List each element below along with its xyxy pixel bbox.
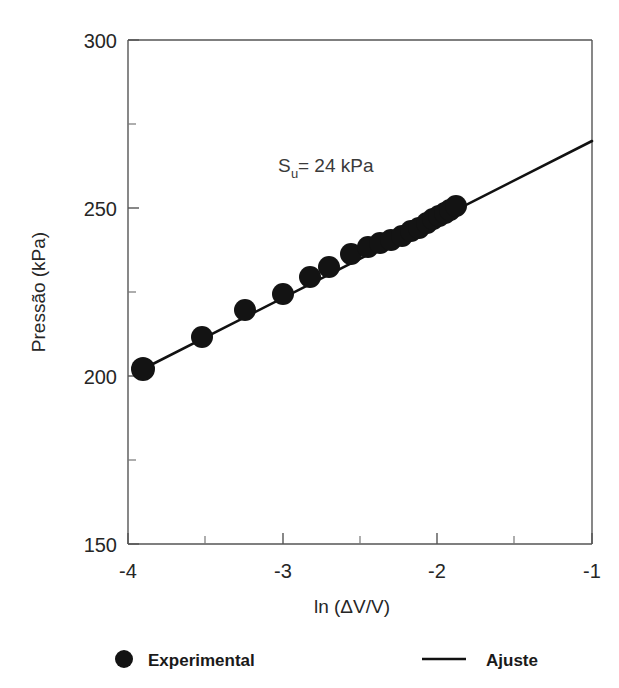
data-point [299,266,321,288]
y-tick-label-250: 250 [84,198,117,220]
x-tick-label-neg2: -2 [428,560,446,582]
data-point [234,299,256,321]
data-point [272,283,294,305]
x-tick-label-neg1: -1 [583,560,601,582]
annotation-symbol: S [278,155,291,176]
y-tick-label-300: 300 [84,30,117,52]
figure-background [0,0,619,688]
x-axis-title: ln (ΔV/V) [314,596,390,617]
data-point [318,256,340,278]
annotation-value: = 24 kPa [298,155,374,176]
legend-marker-experimental [115,650,133,668]
y-tick-label-150: 150 [84,534,117,556]
y-axis-title: Pressão (kPa) [28,232,49,352]
data-point [131,357,155,381]
x-tick-label-neg4: -4 [119,560,137,582]
x-tick-label-neg3: -3 [274,560,292,582]
legend-label-experimental: Experimental [148,651,255,670]
data-point [191,326,213,348]
data-point [445,195,467,217]
chart-figure: 300 250 200 150 -4 -3 -2 -1 ln (ΔV/V) Pr… [0,0,619,688]
legend-label-ajuste: Ajuste [486,651,538,670]
y-tick-label-200: 200 [84,366,117,388]
